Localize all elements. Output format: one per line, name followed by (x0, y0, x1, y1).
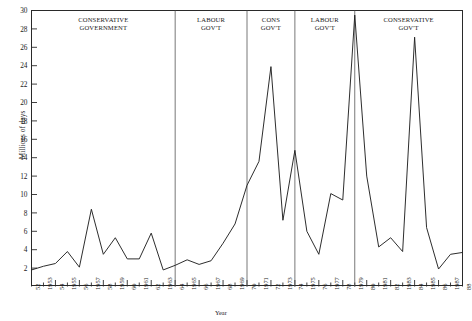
y-tick-marks (32, 11, 38, 269)
period-divider-lines (175, 11, 355, 287)
